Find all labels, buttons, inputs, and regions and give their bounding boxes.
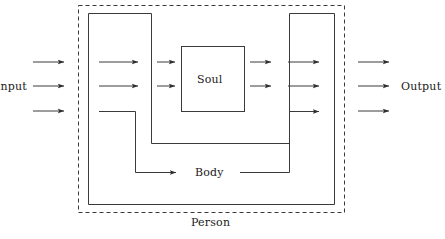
input-label: Input — [0, 81, 27, 92]
body-bypass-in-path — [99, 112, 176, 173]
input-arrows — [33, 62, 64, 111]
diagram-root: Input Output Soul Body Person — [0, 0, 445, 239]
soul-label: Soul — [197, 74, 223, 85]
body-bypass-out-path — [240, 112, 319, 173]
diagram-canvas — [0, 0, 445, 239]
output-arrows — [358, 62, 389, 111]
body-out-arrows — [288, 62, 319, 86]
output-label: Output — [401, 81, 441, 92]
soul-out-arrows — [250, 62, 271, 86]
person-boundary-box — [79, 6, 345, 213]
soul-in-arrows — [157, 62, 175, 86]
body-in-arrows — [99, 62, 138, 86]
body-label: Body — [195, 167, 224, 178]
person-label: Person — [191, 217, 230, 228]
